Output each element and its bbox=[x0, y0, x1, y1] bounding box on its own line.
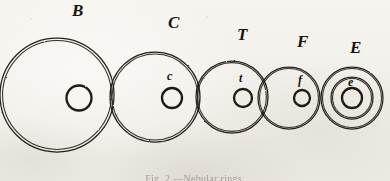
label-major-e: E bbox=[350, 39, 361, 56]
diagram-circle bbox=[3, 41, 112, 150]
circle-diagram-canvas bbox=[0, 0, 390, 181]
diagram-circle bbox=[162, 88, 182, 108]
diagram-circle bbox=[198, 63, 267, 132]
diagram-circle bbox=[67, 86, 92, 111]
label-major-c: C bbox=[168, 14, 179, 31]
figure-container: B C T F E c t f e Fig. 2.—Nebular rings. bbox=[0, 0, 390, 181]
diagram-circle bbox=[342, 88, 362, 108]
label-minor-c: c bbox=[167, 70, 172, 82]
label-minor-f: f bbox=[298, 74, 302, 86]
diagram-circle bbox=[196, 61, 268, 133]
diagram-circle bbox=[110, 52, 200, 142]
label-major-t: T bbox=[237, 26, 247, 43]
diagram-circle bbox=[294, 90, 310, 106]
figure-caption: Fig. 2.—Nebular rings. bbox=[0, 173, 390, 181]
label-minor-t: t bbox=[239, 72, 242, 84]
diagram-circle bbox=[234, 89, 252, 107]
diagram-circle bbox=[0, 38, 114, 152]
label-major-b: B bbox=[72, 2, 83, 19]
label-major-f: F bbox=[297, 33, 308, 50]
diagram-circle bbox=[112, 54, 198, 140]
label-minor-e: e bbox=[348, 76, 353, 88]
